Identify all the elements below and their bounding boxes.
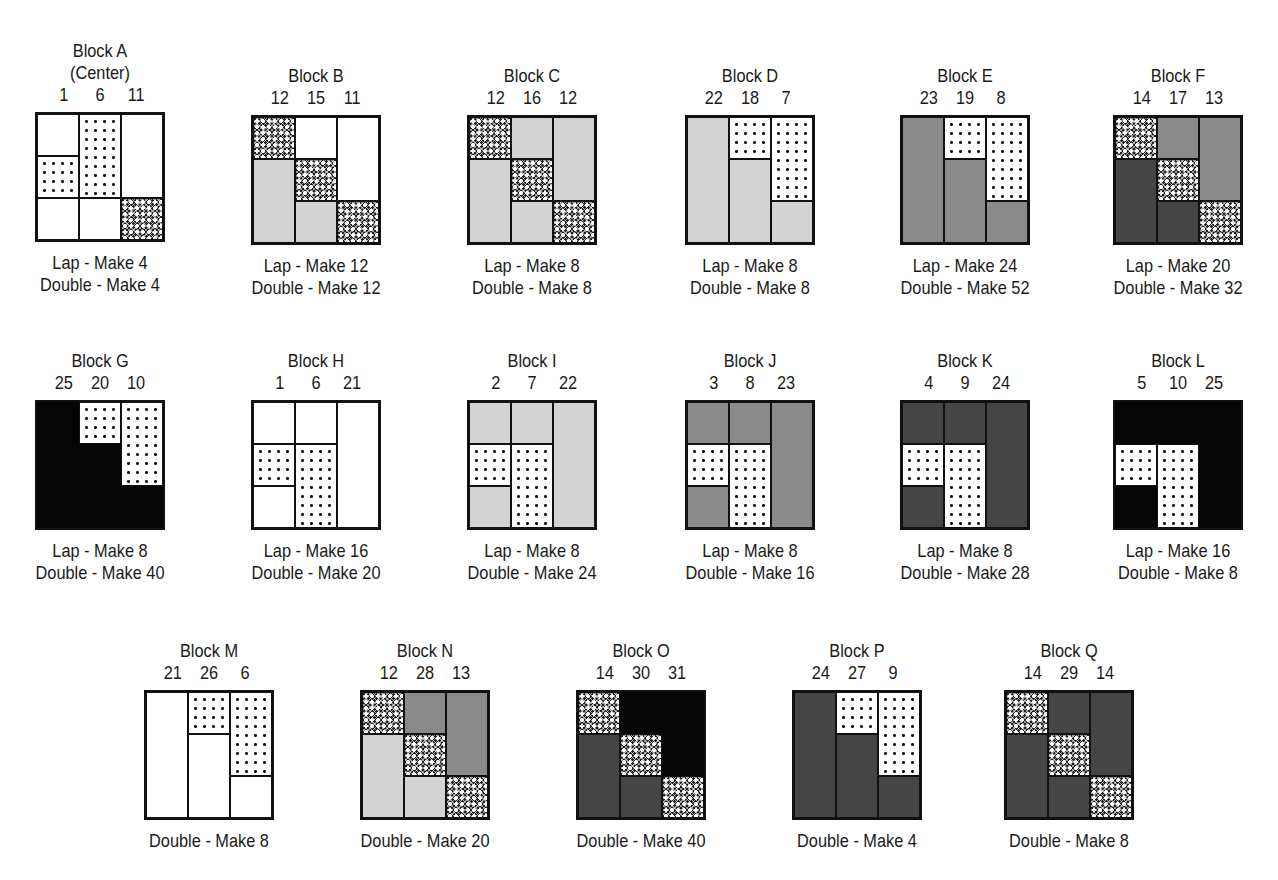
fabric-patch-black bbox=[1115, 486, 1157, 528]
double-quantity: Double - Make 8 bbox=[983, 830, 1155, 852]
block-diagram bbox=[1113, 400, 1243, 530]
quilt-block-d: Block D22187Lap - Make 8Double - Make 8 bbox=[650, 65, 850, 299]
fabric-patch-black bbox=[121, 486, 163, 528]
block-diagram bbox=[35, 112, 165, 242]
block-diagram bbox=[35, 400, 165, 530]
fabric-patch-white bbox=[337, 402, 379, 528]
fabric-patch-dark bbox=[620, 776, 662, 818]
fabric-patch-black bbox=[662, 692, 704, 776]
fabric-patch-dots bbox=[511, 444, 553, 528]
fabric-patch-white bbox=[337, 117, 379, 201]
fabric-patch-mid bbox=[986, 201, 1028, 243]
lap-quantity: Lap - Make 16 bbox=[1092, 540, 1264, 562]
quilt-block-j: Block J3823Lap - Make 8Double - Make 16 bbox=[650, 350, 850, 584]
fabric-patch-black bbox=[1157, 402, 1199, 444]
lap-quantity: Lap - Make 8 bbox=[446, 540, 618, 562]
fabric-number: 22 bbox=[550, 372, 586, 394]
block-title: Block H bbox=[230, 350, 402, 372]
fabric-patch-dark bbox=[794, 692, 836, 818]
fabric-numbers: 252010 bbox=[14, 372, 186, 394]
fabric-patch-white bbox=[295, 117, 337, 159]
fabric-patch-white bbox=[37, 198, 79, 240]
fabric-number: 23 bbox=[768, 372, 804, 394]
fabric-numbers: 122813 bbox=[339, 662, 511, 684]
fabric-number: 13 bbox=[1196, 87, 1232, 109]
fabric-patch-dots bbox=[188, 692, 230, 734]
double-quantity: Double - Make 24 bbox=[446, 562, 618, 584]
fabric-patch-mid bbox=[687, 402, 729, 444]
fabric-patch-light bbox=[469, 486, 511, 528]
fabric-patch-mid bbox=[902, 117, 944, 243]
block-diagram bbox=[1004, 690, 1134, 820]
fabric-number: 12 bbox=[478, 87, 514, 109]
fabric-number: 6 bbox=[227, 662, 263, 684]
fabric-number: 14 bbox=[587, 662, 623, 684]
fabric-patch-dots bbox=[986, 117, 1028, 201]
fabric-number: 3 bbox=[696, 372, 732, 394]
fabric-number: 19 bbox=[947, 87, 983, 109]
block-diagram bbox=[685, 400, 815, 530]
fabric-number: 14 bbox=[1087, 662, 1123, 684]
block-diagram bbox=[576, 690, 706, 820]
fabric-numbers: 22187 bbox=[664, 87, 836, 109]
fabric-numbers: 1621 bbox=[230, 372, 402, 394]
block-subtitle: (Center) bbox=[14, 62, 186, 84]
fabric-number: 26 bbox=[191, 662, 227, 684]
fabric-number: 22 bbox=[696, 87, 732, 109]
fabric-numbers: 4924 bbox=[879, 372, 1051, 394]
double-quantity: Double - Make 4 bbox=[14, 274, 186, 296]
fabric-number: 11 bbox=[118, 84, 154, 106]
fabric-patch-dots bbox=[878, 692, 920, 776]
fabric-patch-cross bbox=[1115, 117, 1157, 159]
fabric-number: 30 bbox=[623, 662, 659, 684]
block-diagram bbox=[685, 115, 815, 245]
fabric-number: 10 bbox=[118, 372, 154, 394]
block-title: Block O bbox=[555, 640, 727, 662]
fabric-patch-dots bbox=[902, 444, 944, 486]
block-diagram bbox=[251, 400, 381, 530]
fabric-patch-white bbox=[188, 734, 230, 818]
double-quantity: Double - Make 20 bbox=[339, 830, 511, 852]
fabric-patch-light bbox=[511, 117, 553, 159]
fabric-patch-cross bbox=[1090, 776, 1132, 818]
fabric-patch-dark bbox=[902, 402, 944, 444]
fabric-patch-dots bbox=[295, 444, 337, 528]
block-title: Block N bbox=[339, 640, 511, 662]
fabric-patch-cross bbox=[553, 201, 595, 243]
fabric-number: 15 bbox=[298, 87, 334, 109]
block-title: Block B bbox=[230, 65, 402, 87]
fabric-number: 5 bbox=[1124, 372, 1160, 394]
block-title: Block D bbox=[664, 65, 836, 87]
quilt-block-l: Block L51025Lap - Make 16Double - Make 8 bbox=[1078, 350, 1278, 584]
fabric-patch-cross bbox=[121, 198, 163, 240]
quilt-block-q: Block Q142914Double - Make 8 bbox=[969, 640, 1169, 852]
fabric-number: 12 bbox=[371, 662, 407, 684]
block-title: Block M bbox=[123, 640, 295, 662]
lap-quantity: Lap - Make 24 bbox=[879, 255, 1051, 277]
fabric-number: 7 bbox=[514, 372, 550, 394]
fabric-patch-white bbox=[121, 114, 163, 198]
double-quantity: Double - Make 8 bbox=[1092, 562, 1264, 584]
fabric-numbers: 2722 bbox=[446, 372, 618, 394]
fabric-numbers: 51025 bbox=[1092, 372, 1264, 394]
fabric-patch-dark bbox=[878, 776, 920, 818]
block-title: Block I bbox=[446, 350, 618, 372]
fabric-number: 21 bbox=[155, 662, 191, 684]
fabric-patch-black bbox=[1199, 402, 1241, 528]
fabric-numbers: 141713 bbox=[1092, 87, 1264, 109]
fabric-patch-white bbox=[253, 402, 295, 444]
fabric-number: 18 bbox=[732, 87, 768, 109]
fabric-patch-cross bbox=[662, 776, 704, 818]
fabric-patch-light bbox=[553, 402, 595, 528]
fabric-patch-dots bbox=[79, 402, 121, 444]
fabric-patch-light bbox=[553, 117, 595, 201]
block-diagram bbox=[900, 115, 1030, 245]
double-quantity: Double - Make 8 bbox=[664, 277, 836, 299]
fabric-numbers: 143031 bbox=[555, 662, 727, 684]
fabric-patch-cross bbox=[362, 692, 404, 734]
fabric-number: 21 bbox=[334, 372, 370, 394]
fabric-patch-light bbox=[511, 402, 553, 444]
fabric-patch-cross bbox=[1048, 734, 1090, 776]
fabric-patch-dots bbox=[37, 156, 79, 198]
fabric-patch-mid bbox=[944, 159, 986, 243]
